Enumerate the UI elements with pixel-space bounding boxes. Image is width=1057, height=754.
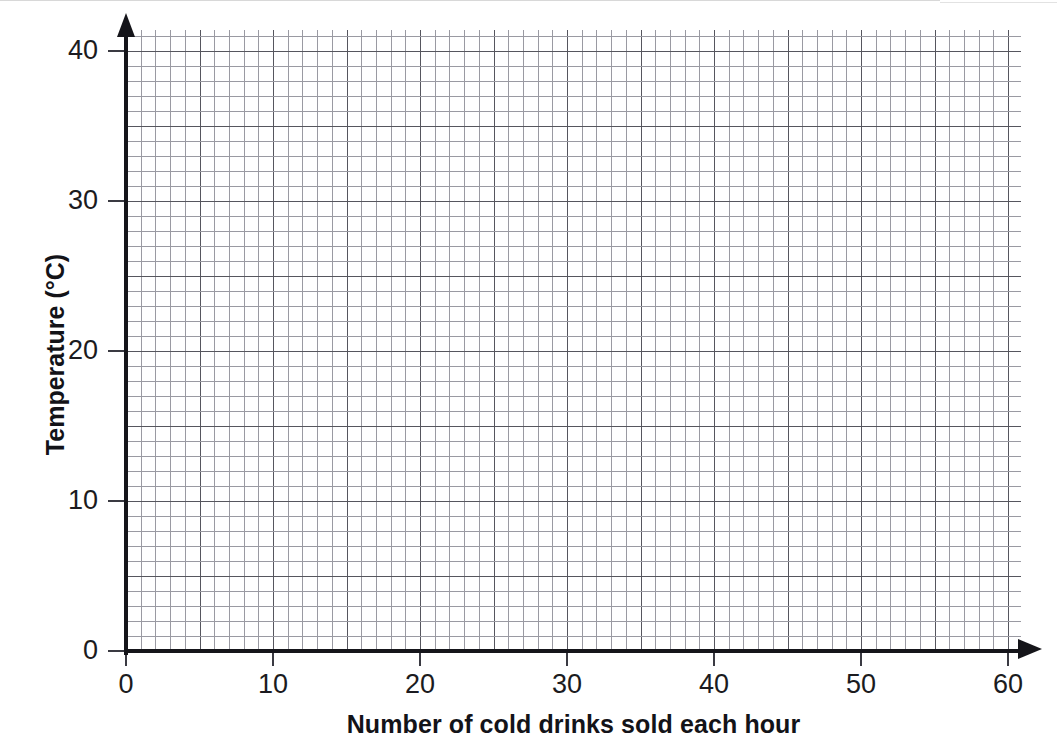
grid-line-vertical-minor — [699, 30, 700, 651]
grid-line-horizontal-minor — [126, 531, 1021, 532]
x-axis-title: Number of cold drinks sold each hour — [126, 710, 1021, 739]
x-axis-line — [124, 649, 1024, 653]
grid-line-vertical-minor — [214, 30, 215, 651]
graph-page: 0102030405060 010203040 Number of cold d… — [0, 0, 1057, 754]
grid-line-vertical-minor — [170, 30, 171, 651]
grid-line-vertical-major — [273, 30, 274, 651]
grid-line-vertical-minor — [611, 30, 612, 651]
grid-line-horizontal-minor — [126, 471, 1021, 472]
grid-line-vertical-minor — [332, 30, 333, 651]
grid-line-horizontal-minor — [126, 336, 1021, 337]
grid-line-vertical-major — [861, 30, 862, 651]
x-tick-label: 0 — [96, 668, 156, 700]
grid-line-horizontal-minor — [126, 591, 1021, 592]
grid-line-vertical-major — [494, 30, 495, 651]
grid-line-vertical-minor — [890, 30, 891, 651]
grid-line-vertical-major — [1008, 30, 1009, 651]
page-top-edge-artifact-right — [940, 2, 1057, 3]
x-tick-mark — [272, 653, 274, 666]
grid-line-vertical-minor — [949, 30, 950, 651]
grid-line-horizontal-major — [126, 201, 1021, 202]
grid-line-horizontal-minor — [126, 186, 1021, 187]
grid-line-vertical-minor — [391, 30, 392, 651]
grid-line-vertical-minor — [317, 30, 318, 651]
x-tick-mark — [1007, 653, 1009, 666]
grid-line-vertical-minor — [832, 30, 833, 651]
grid-line-vertical-minor — [449, 30, 450, 651]
grid-line-vertical-minor — [508, 30, 509, 651]
grid-line-vertical-minor — [435, 30, 436, 651]
grid-line-vertical-minor — [905, 30, 906, 651]
grid-line-vertical-minor — [743, 30, 744, 651]
y-tick-mark — [108, 500, 124, 502]
grid-line-vertical-major — [788, 30, 789, 651]
grid-line-horizontal-minor — [126, 96, 1021, 97]
plot-grid-area — [126, 30, 1021, 651]
arrow-up-icon — [117, 13, 135, 37]
grid-line-horizontal-minor — [126, 411, 1021, 412]
grid-line-horizontal-minor — [126, 636, 1021, 637]
grid-line-vertical-minor — [626, 30, 627, 651]
grid-line-horizontal-minor — [126, 486, 1021, 487]
grid-line-horizontal-minor — [126, 36, 1021, 37]
grid-line-vertical-minor — [993, 30, 994, 651]
grid-line-horizontal-minor — [126, 216, 1021, 217]
grid-line-horizontal-minor — [126, 156, 1021, 157]
grid-line-horizontal-minor — [126, 606, 1021, 607]
y-tick-mark — [108, 200, 124, 202]
grid-line-vertical-major — [935, 30, 936, 651]
grid-line-horizontal-minor — [126, 456, 1021, 457]
grid-line-vertical-minor — [876, 30, 877, 651]
grid-line-vertical-minor — [523, 30, 524, 651]
grid-line-vertical-minor — [288, 30, 289, 651]
grid-line-vertical-minor — [479, 30, 480, 651]
grid-line-vertical-minor — [376, 30, 377, 651]
grid-line-vertical-minor — [258, 30, 259, 651]
x-tick-mark — [860, 653, 862, 666]
grid-line-vertical-major — [714, 30, 715, 651]
x-tick-mark — [566, 653, 568, 666]
grid-line-vertical-minor — [302, 30, 303, 651]
x-tick-label: 40 — [684, 668, 744, 700]
x-tick-label: 60 — [978, 668, 1038, 700]
grid-line-vertical-major — [567, 30, 568, 651]
y-tick-mark — [108, 350, 124, 352]
grid-line-horizontal-major — [126, 276, 1021, 277]
grid-line-vertical-minor — [155, 30, 156, 651]
grid-line-vertical-minor — [655, 30, 656, 651]
grid-line-vertical-minor — [729, 30, 730, 651]
y-tick-mark — [108, 650, 124, 652]
grid-line-horizontal-minor — [126, 141, 1021, 142]
x-tick-mark — [713, 653, 715, 666]
grid-line-vertical-minor — [596, 30, 597, 651]
grid-line-vertical-minor — [229, 30, 230, 651]
grid-line-vertical-minor — [464, 30, 465, 651]
grid-line-horizontal-minor — [126, 261, 1021, 262]
grid-line-vertical-minor — [670, 30, 671, 651]
grid-line-vertical-minor — [920, 30, 921, 651]
grid-line-vertical-minor — [802, 30, 803, 651]
grid-line-vertical-minor — [582, 30, 583, 651]
grid-line-horizontal-minor — [126, 561, 1021, 562]
y-tick-mark — [108, 50, 124, 52]
grid-line-horizontal-minor — [126, 111, 1021, 112]
arrow-right-icon — [1018, 639, 1042, 659]
grid-line-horizontal-minor — [126, 306, 1021, 307]
x-tick-label: 30 — [537, 668, 597, 700]
grid-line-vertical-major — [641, 30, 642, 651]
grid-line-horizontal-major — [126, 126, 1021, 127]
grid-line-vertical-minor — [141, 30, 142, 651]
grid-line-vertical-minor — [405, 30, 406, 651]
x-tick-label: 10 — [243, 668, 303, 700]
x-tick-label: 20 — [390, 668, 450, 700]
grid-lines — [126, 30, 1021, 651]
grid-line-horizontal-minor — [126, 381, 1021, 382]
grid-line-horizontal-minor — [126, 66, 1021, 67]
grid-line-horizontal-minor — [126, 291, 1021, 292]
grid-line-horizontal-minor — [126, 546, 1021, 547]
grid-line-vertical-major — [200, 30, 201, 651]
grid-line-horizontal-major — [126, 576, 1021, 577]
grid-line-horizontal-major — [126, 501, 1021, 502]
grid-line-vertical-minor — [538, 30, 539, 651]
grid-line-vertical-minor — [964, 30, 965, 651]
